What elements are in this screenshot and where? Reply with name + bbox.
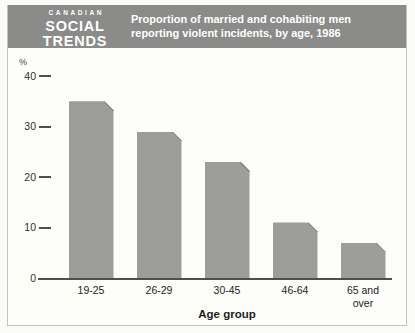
x-axis-category-label: 26-29 xyxy=(146,284,173,309)
y-axis-tick-label: 10 xyxy=(8,221,36,234)
logo-line-canadian: CANADIAN xyxy=(31,10,119,17)
bar-chart: % 403020100 19-2526-2930-4546-6465 and o… xyxy=(8,48,406,326)
x-axis-category-label: 46-64 xyxy=(282,284,309,309)
y-axis-tick-mark xyxy=(39,126,51,128)
bar xyxy=(341,243,386,278)
canadian-social-trends-logo: CANADIAN SOCIAL TRENDS xyxy=(31,10,119,48)
chart-frame: CANADIAN SOCIAL TRENDS Proportion of mar… xyxy=(7,5,407,326)
y-axis-tick-mark xyxy=(39,227,51,229)
bar-slot xyxy=(329,76,397,278)
bar-slot xyxy=(193,76,261,278)
bar-slot xyxy=(261,76,329,278)
bar-slot xyxy=(125,76,193,278)
x-axis-category-label: 19-25 xyxy=(78,284,105,309)
x-axis-line xyxy=(38,278,392,280)
figure: CANADIAN SOCIAL TRENDS Proportion of mar… xyxy=(0,0,415,333)
x-axis-category-cell: 19-25 xyxy=(57,284,125,309)
y-axis-tick-label: 20 xyxy=(8,171,36,184)
x-axis-category-cell: 30-45 xyxy=(193,284,261,309)
bar xyxy=(205,162,250,278)
y-axis-tick-mark xyxy=(39,176,51,178)
y-axis-tick-label: 0 xyxy=(8,272,36,285)
x-axis-title: Age group xyxy=(57,308,397,320)
x-axis-category-cell: 46-64 xyxy=(261,284,329,309)
bar xyxy=(69,101,114,278)
y-axis-tick-label: 40 xyxy=(8,70,36,83)
logo-line-social: SOCIAL xyxy=(31,19,119,34)
x-axis-labels: 19-2526-2930-4546-6465 and over xyxy=(57,284,397,309)
y-axis-unit-label: % xyxy=(19,57,27,67)
bar xyxy=(137,132,182,278)
y-axis-tick-mark xyxy=(39,75,51,77)
x-axis-category-label: 65 and over xyxy=(339,284,387,309)
bar xyxy=(273,222,318,278)
x-axis-category-label: 30-45 xyxy=(214,284,241,309)
chart-title: Proportion of married and cohabiting men… xyxy=(131,12,399,40)
x-axis-category-cell: 65 and over xyxy=(329,284,397,309)
plot-area xyxy=(57,76,397,278)
bar-slot xyxy=(57,76,125,278)
header-band: CANADIAN SOCIAL TRENDS Proportion of mar… xyxy=(8,5,406,48)
y-axis-tick-label: 30 xyxy=(8,120,36,133)
x-axis-category-cell: 26-29 xyxy=(125,284,193,309)
logo-line-trends: TRENDS xyxy=(31,34,119,49)
